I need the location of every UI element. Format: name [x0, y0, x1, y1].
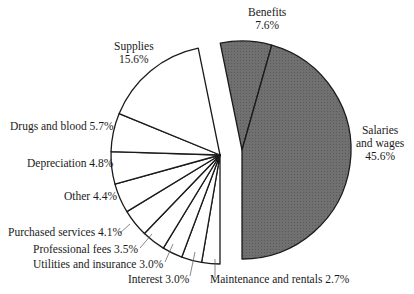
drugs-label: Drugs and blood 5.7% — [10, 120, 114, 133]
salaries-name-line1: Salaries — [356, 124, 404, 137]
supplies-value: 15.6% — [114, 53, 154, 66]
utilities-label: Utilities and insurance 3.0% — [33, 258, 163, 271]
salaries-label: Salaries and wages 45.6% — [356, 124, 404, 163]
professional-fees-label: Professional fees 3.5% — [33, 243, 138, 256]
supplies-name: Supplies — [114, 40, 154, 53]
shaded-slices — [220, 41, 351, 259]
supplies-label: Supplies 15.6% — [114, 40, 154, 66]
interest-label: Interest 3.0% — [128, 273, 189, 286]
benefits-label: Benefits 7.6% — [248, 6, 286, 32]
depreciation-label: Depreciation 4.8% — [27, 157, 113, 170]
benefits-value: 7.6% — [248, 19, 286, 32]
other-label: Other 4.4% — [64, 190, 117, 203]
benefits-name: Benefits — [248, 6, 286, 19]
maintenance-label: Maintenance and rentals 2.7% — [210, 273, 349, 286]
salaries-name-line2: and wages — [356, 137, 404, 150]
salaries-value: 45.6% — [356, 150, 404, 163]
purchased-services-label: Purchased services 4.1% — [8, 226, 122, 239]
white-slices — [111, 48, 220, 264]
